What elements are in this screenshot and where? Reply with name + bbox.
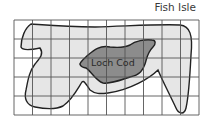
lake-label: Loch Cod (91, 57, 135, 68)
island-map: Loch Cod (0, 0, 206, 122)
